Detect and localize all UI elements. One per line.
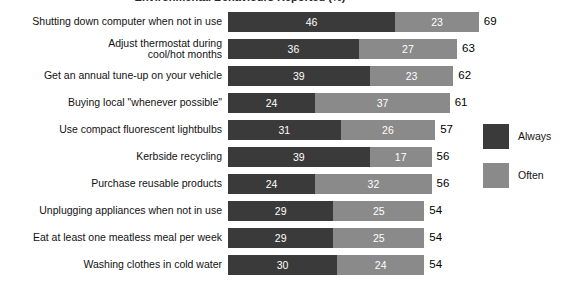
legend-label: Always	[518, 131, 551, 142]
bar-segment-always: 24	[228, 174, 315, 194]
segment-value: 46	[306, 17, 318, 28]
row-total: 61	[455, 97, 468, 109]
stacked-bar: 3917	[228, 147, 432, 167]
chart-row: Unplugging appliances when not in use292…	[0, 201, 571, 221]
legend-item: Always	[483, 124, 571, 149]
stacked-bar: 2925	[228, 228, 424, 248]
row-total: 54	[429, 205, 442, 217]
legend-swatch	[483, 124, 509, 149]
segment-value: 37	[377, 98, 389, 109]
stacked-bar: 2925	[228, 201, 424, 221]
segment-value: 29	[275, 233, 287, 244]
bar-segment-often: 24	[337, 255, 424, 275]
segment-value: 31	[278, 125, 290, 136]
row-label: Adjust thermostat during cool/hot months	[0, 38, 228, 61]
row-total: 56	[437, 178, 450, 190]
bar-segment-always: 46	[228, 12, 395, 32]
bar-segment-often: 23	[370, 66, 454, 86]
row-total: 63	[462, 43, 475, 55]
row-total: 69	[484, 16, 497, 28]
chart-row: Adjust thermostat during cool/hot months…	[0, 39, 571, 59]
bar-segment-always: 29	[228, 201, 333, 221]
row-label: Shutting down computer when not in use	[0, 16, 228, 28]
bar-segment-often: 17	[370, 147, 432, 167]
stacked-bar: 2432	[228, 174, 432, 194]
stacked-bar: 3627	[228, 39, 457, 59]
bar-segment-often: 25	[333, 228, 424, 248]
bar-segment-always: 39	[228, 66, 370, 86]
segment-value: 27	[402, 44, 414, 55]
segment-value: 24	[266, 179, 278, 190]
row-label: Washing clothes in cold water	[0, 259, 228, 271]
stacked-bar: 3024	[228, 255, 424, 275]
stacked-bar-chart: Environmental Behaviours Reported (%) Sh…	[0, 0, 571, 288]
row-label: Get an annual tune-up on your vehicle	[0, 70, 228, 82]
row-total: 62	[458, 70, 471, 82]
segment-value: 32	[368, 179, 380, 190]
row-label: Purchase reusable products	[0, 178, 228, 190]
segment-value: 25	[373, 233, 385, 244]
bar-segment-often: 27	[359, 39, 457, 59]
row-label: Unplugging appliances when not in use	[0, 205, 228, 217]
row-label: Buying local "whenever possible"	[0, 97, 228, 109]
bar-segment-often: 32	[315, 174, 431, 194]
row-total: 54	[429, 259, 442, 271]
bar-segment-always: 24	[228, 93, 315, 113]
row-label: Eat at least one meatless meal per week	[0, 232, 228, 244]
chart-row: Shutting down computer when not in use46…	[0, 12, 571, 32]
segment-value: 17	[395, 152, 407, 163]
stacked-bar: 4623	[228, 12, 479, 32]
segment-value: 26	[382, 125, 394, 136]
legend-item: Often	[483, 163, 571, 188]
segment-value: 36	[288, 44, 300, 55]
segment-value: 39	[293, 71, 305, 82]
segment-value: 25	[373, 206, 385, 217]
row-total: 54	[429, 232, 442, 244]
chart-legend: AlwaysOften	[483, 124, 571, 202]
segment-value: 24	[375, 260, 387, 271]
segment-value: 23	[406, 71, 418, 82]
chart-row: Eat at least one meatless meal per week2…	[0, 228, 571, 248]
bar-segment-often: 23	[395, 12, 479, 32]
bar-segment-often: 26	[341, 120, 436, 140]
bar-segment-always: 29	[228, 228, 333, 248]
legend-swatch	[483, 163, 509, 188]
chart-row: Get an annual tune-up on your vehicle392…	[0, 66, 571, 86]
chart-row: Buying local "whenever possible"243761	[0, 93, 571, 113]
row-total: 57	[440, 124, 453, 136]
stacked-bar: 3923	[228, 66, 453, 86]
bar-segment-always: 31	[228, 120, 341, 140]
row-label: Kerbside recycling	[0, 151, 228, 163]
row-total: 56	[437, 151, 450, 163]
bar-segment-always: 30	[228, 255, 337, 275]
row-label: Use compact fluorescent lightbulbs	[0, 124, 228, 136]
bar-segment-always: 39	[228, 147, 370, 167]
chart-row: Washing clothes in cold water302454	[0, 255, 571, 275]
segment-value: 23	[431, 17, 443, 28]
segment-value: 30	[277, 260, 289, 271]
stacked-bar: 3126	[228, 120, 435, 140]
bar-segment-often: 25	[333, 201, 424, 221]
segment-value: 24	[266, 98, 278, 109]
segment-value: 39	[293, 152, 305, 163]
bar-segment-often: 37	[315, 93, 449, 113]
segment-value: 29	[275, 206, 287, 217]
bar-segment-always: 36	[228, 39, 359, 59]
chart-title: Environmental Behaviours Reported (%)	[0, 0, 480, 3]
legend-label: Often	[518, 170, 544, 181]
stacked-bar: 2437	[228, 93, 450, 113]
